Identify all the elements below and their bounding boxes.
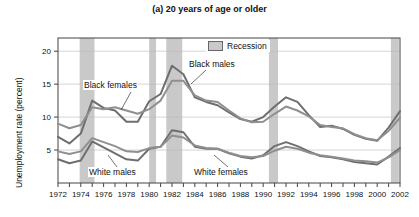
x-tick-label: 1984 xyxy=(186,190,204,199)
x-tick-label: 1994 xyxy=(300,190,318,199)
x-tick-label: 1986 xyxy=(209,190,227,199)
recession-swatch-icon xyxy=(208,41,223,51)
chart-plot-area: 5101520 19721974197619781980198219841986… xyxy=(0,0,419,217)
x-tick-label: 1998 xyxy=(346,190,364,199)
annotation-leader-line xyxy=(108,155,117,167)
x-tick-label: 2000 xyxy=(368,190,386,199)
y-tick-label: 10 xyxy=(42,113,51,122)
recession-band xyxy=(80,38,95,183)
x-tick-label: 1988 xyxy=(232,190,250,199)
chart-figure: (a) 20 years of age or older Unemploymen… xyxy=(0,0,419,217)
recession-band xyxy=(391,38,399,183)
legend: Recession xyxy=(206,40,270,52)
x-tick-label: 1972 xyxy=(49,190,67,199)
y-axis-ticks-group: 5101520 xyxy=(42,47,58,155)
x-tick-label: 1982 xyxy=(163,190,181,199)
annotation-leader-line xyxy=(121,92,131,110)
x-tick-label: 1992 xyxy=(277,190,295,199)
legend-label-recession: Recession xyxy=(227,41,267,51)
x-tick-label: 1976 xyxy=(95,190,113,199)
series-label-black-females: Black females xyxy=(83,80,138,90)
x-axis-ticks-group: 1972197419761978198019821984198619881990… xyxy=(49,183,409,199)
x-tick-label: 1990 xyxy=(254,190,272,199)
x-tick-label: 2002 xyxy=(391,190,409,199)
series-label-white-females: White females xyxy=(193,167,249,177)
x-tick-label: 1978 xyxy=(118,190,136,199)
annotation-leader-line xyxy=(191,70,206,84)
series-line xyxy=(58,136,400,163)
series-label-white-males: White males xyxy=(88,167,137,177)
annotation-leader-line xyxy=(214,155,228,167)
x-tick-label: 1980 xyxy=(140,190,158,199)
x-tick-label: 1974 xyxy=(72,190,90,199)
y-tick-label: 20 xyxy=(42,47,51,56)
recession-band xyxy=(166,38,182,183)
x-tick-label: 1996 xyxy=(323,190,341,199)
y-tick-label: 15 xyxy=(42,80,51,89)
y-tick-label: 5 xyxy=(47,146,52,155)
recession-band xyxy=(149,38,156,183)
series-label-black-males: Black males xyxy=(188,59,236,69)
